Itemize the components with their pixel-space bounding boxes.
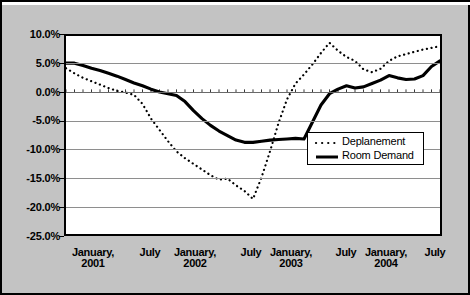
x-label-line1: July <box>405 247 465 258</box>
gridline-neg20 <box>66 207 440 208</box>
y-axis-tick-label: -25.0% <box>2 230 60 242</box>
gridline-neg15 <box>66 178 440 179</box>
top-edge-sliver <box>2 2 470 5</box>
x-label-line2: 2004 <box>351 258 421 269</box>
dotted-line-swatch <box>314 135 340 150</box>
gridline-neg5 <box>66 121 440 122</box>
x-label-line2: 2001 <box>58 258 128 269</box>
y-axis-tick-label: 0.0% <box>2 86 60 98</box>
legend: Deplanement Room Demand <box>307 132 424 165</box>
y-axis-tick-mark <box>59 236 64 237</box>
y-axis-tick-label: -5.0% <box>2 114 60 126</box>
legend-entry-deplanement: Deplanement <box>308 135 425 150</box>
legend-label-room-demand: Room Demand <box>342 149 414 161</box>
series-line-room-demand <box>66 61 440 142</box>
y-axis-tick-label: -10.0% <box>2 143 60 155</box>
y-axis-tick-label: -15.0% <box>2 172 60 184</box>
y-axis-tick-label: 10.0% <box>2 28 60 40</box>
chart-frame: 10.0% 5.0% 0.0% -5.0% -10.0% -15.0% -20.… <box>0 0 470 295</box>
y-axis-tick-label: -20.0% <box>2 201 60 213</box>
x-label-line2: 2003 <box>256 258 326 269</box>
solid-line-swatch <box>314 149 340 164</box>
x-axis-label-jul-2004: July <box>405 247 465 258</box>
gridline-5pct <box>66 63 440 64</box>
x-label-line2: 2002 <box>160 258 230 269</box>
gridline-0pct <box>66 92 440 93</box>
legend-label-deplanement: Deplanement <box>342 135 405 147</box>
y-axis-tick-label: 5.0% <box>2 57 60 69</box>
legend-entry-room-demand: Room Demand <box>308 149 425 164</box>
plot-area: Deplanement Room Demand <box>64 34 442 236</box>
